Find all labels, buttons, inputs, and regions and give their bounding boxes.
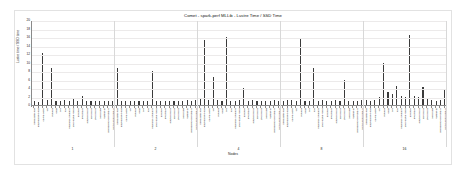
- y-tick-label: 8: [28, 70, 30, 73]
- x-tick-label: block-matrix-mult: [238, 108, 241, 127]
- x-tick-label: chi-sq-gof: [339, 108, 342, 119]
- x-tick-label: python-glm-regression: [356, 108, 359, 133]
- x-tick-label: svd: [391, 108, 394, 112]
- x-tick-label: spearman: [413, 108, 416, 119]
- x-tick-label: word2vec: [98, 108, 101, 119]
- bar: [182, 101, 183, 105]
- x-tick-label: python-glm-regression: [190, 108, 193, 133]
- bar: [357, 101, 358, 105]
- x-tick-label: als: [212, 108, 215, 111]
- bar: [274, 100, 275, 105]
- x-tick-label: chi-sq-gof: [256, 108, 259, 119]
- y-tick-mark: [31, 55, 32, 56]
- group-separator: [363, 21, 364, 147]
- x-tick-label: svd: [225, 108, 228, 112]
- y-tick-label: 0: [28, 104, 30, 107]
- y-tick-mark: [31, 21, 32, 22]
- x-tick-label: python-glm-regression: [439, 108, 442, 133]
- x-tick-label: naive-bayes: [374, 108, 377, 121]
- y-tick-mark: [31, 64, 32, 65]
- y-tick-label: 18: [26, 28, 30, 31]
- group-separator: [446, 21, 447, 147]
- x-tick-label: naive-bayes: [208, 108, 211, 121]
- x-tick-label: als: [378, 108, 381, 111]
- x-tick-label: glm-classification: [120, 108, 123, 127]
- group-label: 4: [238, 147, 240, 151]
- bar: [331, 101, 332, 105]
- x-tick-label: spearman: [330, 108, 333, 119]
- grid-line: [32, 47, 446, 48]
- bar: [77, 101, 78, 105]
- bar: [121, 101, 122, 105]
- bar: [304, 101, 305, 105]
- x-tick-label: als: [46, 108, 49, 111]
- bar: [409, 35, 410, 105]
- grid-line: [32, 72, 446, 73]
- bar: [55, 101, 56, 105]
- x-tick-label: python-glm-regression: [107, 108, 110, 133]
- bar: [47, 100, 48, 105]
- bar: [208, 100, 209, 105]
- bar: [427, 99, 428, 105]
- x-tick-label: gmm: [55, 108, 58, 114]
- bar: [370, 101, 371, 105]
- x-tick-label: chi-sq-mat: [260, 108, 263, 120]
- x-tick-label: pca: [229, 108, 232, 112]
- x-tick-label: chi-sq-gof: [422, 108, 425, 119]
- x-tick-label: kmeans: [216, 108, 219, 117]
- x-tick-label: summary-statistics: [151, 108, 154, 129]
- x-tick-label: summary-statistics: [400, 108, 403, 129]
- bar: [160, 101, 161, 105]
- y-tick-mark: [31, 30, 32, 31]
- bar: [143, 101, 144, 105]
- plot-area: 02468101214161820: [31, 21, 446, 106]
- bar: [283, 101, 284, 105]
- bar: [217, 100, 218, 105]
- bar: [309, 101, 310, 105]
- x-tick-label: chi-sq-mat: [94, 108, 97, 120]
- x-tick-label: fp-growth: [435, 108, 438, 118]
- x-tick-label: pca: [63, 108, 66, 112]
- x-axis-tick-labels: glm-regressionglm-classificationnaive-ba…: [31, 108, 446, 140]
- x-tick-label: block-matrix-mult: [155, 108, 158, 127]
- bar: [256, 101, 257, 105]
- bar: [392, 94, 393, 105]
- x-tick-label: glm-classification: [286, 108, 289, 127]
- x-tick-label: block-matrix-mult: [72, 108, 75, 127]
- bar: [69, 101, 70, 105]
- bar: [344, 80, 345, 106]
- group-separator: [280, 21, 281, 147]
- group-label: 2: [155, 147, 157, 151]
- bar: [86, 101, 87, 105]
- grid-line: [32, 30, 446, 31]
- bar: [60, 101, 61, 105]
- bar: [339, 101, 340, 105]
- x-tick-label: pearson: [409, 108, 412, 117]
- y-tick-label: 12: [26, 53, 30, 56]
- bar: [134, 101, 135, 105]
- x-tick-label: spearman: [164, 108, 167, 119]
- x-tick-label: chi-sq-feature: [417, 108, 420, 123]
- group-label: 1: [72, 147, 74, 151]
- x-tick-label: als: [295, 108, 298, 111]
- bar: [353, 101, 354, 105]
- bar: [73, 99, 74, 105]
- x-tick-label: chi-sq-feature: [251, 108, 254, 123]
- x-tick-label: chi-sq-feature: [334, 108, 337, 123]
- bar: [335, 100, 336, 105]
- bar: [169, 101, 170, 105]
- x-tick-label: naive-bayes: [291, 108, 294, 121]
- x-tick-label: glm-regression: [33, 108, 36, 125]
- bar: [90, 101, 91, 105]
- bar: [265, 101, 266, 105]
- grid-line: [32, 98, 446, 99]
- bar: [104, 101, 105, 105]
- y-tick-mark: [31, 38, 32, 39]
- y-tick-label: 10: [26, 62, 30, 65]
- x-tick-label: svd: [308, 108, 311, 112]
- x-tick-label: fp-growth: [269, 108, 272, 118]
- bar: [326, 101, 327, 105]
- y-axis-title: Lustre time / SSD time: [16, 30, 20, 63]
- x-tick-label: chi-sq-feature: [168, 108, 171, 123]
- bar: [34, 101, 35, 105]
